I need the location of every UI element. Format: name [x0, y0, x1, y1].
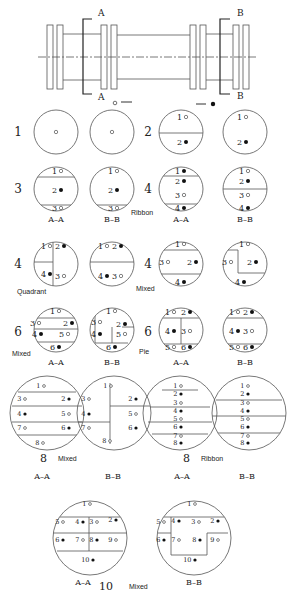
- section-label-bb: B–B: [104, 215, 120, 224]
- open-circle-icon: [229, 260, 232, 263]
- filled-circle-icon: [246, 441, 249, 444]
- section-bb-view: 12345678: [212, 376, 286, 450]
- arrangement-p1: 1: [14, 110, 134, 154]
- open-circle-icon: [180, 435, 183, 438]
- section-bb-view: 13245768: [77, 376, 151, 450]
- pass-number: 6: [240, 423, 244, 431]
- pass-number: 7: [81, 424, 85, 432]
- filled-circle-icon: [179, 392, 182, 395]
- open-circle-icon: [194, 503, 197, 506]
- pass-number: 4: [239, 204, 244, 213]
- pass-number: 2: [247, 258, 252, 267]
- pass-count-label: 8: [183, 452, 190, 465]
- filled-circle-icon: [134, 426, 137, 429]
- pass-number: 1: [175, 167, 180, 176]
- pass-number: 4: [171, 517, 175, 525]
- section-a-bottom-label: A: [97, 92, 105, 102]
- pass-count-label: 10: [99, 580, 113, 593]
- open-circle-icon: [24, 398, 27, 401]
- filled-circle-icon: [162, 538, 165, 541]
- pass-number: 7: [17, 424, 21, 432]
- section-bb-view: 15432678910: [156, 500, 231, 575]
- open-circle-icon: [188, 329, 191, 332]
- filled-circle-icon: [67, 397, 70, 400]
- pass-number: 6: [106, 343, 111, 352]
- pass-number: 7: [75, 536, 79, 544]
- filled-circle-icon: [123, 322, 127, 326]
- pass-arrangement-diagram: A A B B 12121231231234Ribbon123412344Qua…: [0, 0, 287, 600]
- filled-circle-icon: [59, 188, 63, 192]
- pass-number: 4: [75, 518, 79, 526]
- filled-circle-icon: [198, 538, 201, 541]
- pass-number: 2: [239, 177, 244, 186]
- filled-circle-icon: [242, 280, 246, 284]
- filled-circle-icon: [81, 520, 84, 523]
- open-circle-icon: [115, 169, 118, 172]
- filled-circle-icon: [246, 425, 249, 428]
- open-circle-icon: [88, 398, 91, 401]
- section-label-bb: B–B: [239, 472, 255, 481]
- section-label-bb: B–B: [237, 358, 253, 367]
- open-circle-icon: [43, 385, 46, 388]
- open-circle-icon: [24, 427, 27, 430]
- pass-number: 5: [55, 518, 59, 526]
- arrangement-p4q: 4Quadrant12431243: [14, 242, 134, 296]
- pass-number: 4: [173, 407, 177, 415]
- pass-number: 1: [98, 242, 103, 251]
- pass-number: 3: [108, 204, 113, 213]
- open-circle-icon: [135, 413, 138, 416]
- pass-number: 8: [35, 439, 39, 447]
- filled-circle-icon: [62, 244, 66, 248]
- pass-count-label: 1: [14, 125, 22, 139]
- pass-number: 3: [55, 272, 60, 281]
- pass-number: 5: [128, 410, 132, 418]
- arrangement-p6m: 6Mixed132456132456: [12, 307, 134, 357]
- pass-number: 3: [191, 518, 195, 526]
- open-circle-icon: [172, 310, 175, 313]
- pass-number: 4: [81, 410, 85, 418]
- open-circle-icon: [42, 442, 45, 445]
- open-circle-icon: [244, 115, 247, 118]
- pass-number: 3: [159, 258, 164, 267]
- pass-number: 4: [91, 330, 96, 339]
- pass-number: 4: [17, 410, 21, 418]
- pass-arrangements: 12121231231234Ribbon123412344Quadrant124…: [10, 110, 286, 593]
- filled-circle-icon: [115, 188, 119, 192]
- open-circle-icon: [115, 206, 118, 209]
- filled-circle-icon: [114, 518, 117, 521]
- open-circle-icon: [217, 539, 220, 542]
- pass-number: 3: [112, 272, 117, 281]
- tube-sheet-outline: [159, 242, 203, 286]
- pass-number: 2: [237, 138, 242, 147]
- section-aa-view: 1243: [31, 242, 78, 286]
- pass-number: 3: [239, 191, 244, 200]
- pass-number: 6: [156, 536, 160, 544]
- pass-partitions: [12, 392, 82, 435]
- open-circle-icon: [109, 440, 112, 443]
- section-aa-view: [34, 110, 78, 154]
- arrangement-p3: 3123123: [14, 167, 134, 213]
- filled-circle-icon: [70, 321, 74, 325]
- pass-number: 1: [239, 240, 244, 249]
- diagram-canvas: A A B B 12121231231234Ribbon123412344Qua…: [0, 0, 287, 600]
- pass-number: 5: [165, 343, 170, 352]
- heat-exchanger-elevation: [38, 19, 258, 94]
- pass-number: 1: [240, 382, 244, 390]
- section-label-aa: A–A: [47, 215, 64, 224]
- filled-circle-icon: [179, 441, 182, 444]
- section-label-aa: A–A: [47, 358, 64, 367]
- open-circle-icon: [247, 435, 250, 438]
- filled-circle-icon: [254, 260, 258, 264]
- open-circle-icon: [98, 320, 101, 323]
- pass-number: 4: [175, 278, 180, 287]
- pass-number: 4: [98, 272, 103, 281]
- section-label-bb: B–B: [237, 215, 253, 224]
- arrangement-type-label: Mixed: [129, 583, 148, 590]
- tube-sheet-outline: [223, 242, 267, 286]
- open-circle-icon: [184, 115, 187, 118]
- open-circle-icon: [68, 413, 71, 416]
- section-aa-view: 12345678: [143, 376, 217, 450]
- pass-number: 8: [192, 536, 196, 544]
- open-circle-icon: [89, 503, 92, 506]
- pass-number: 1: [175, 240, 180, 249]
